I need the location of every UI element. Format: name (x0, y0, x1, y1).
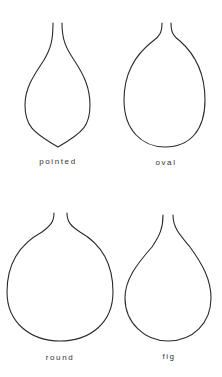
fig-shape-outline (125, 215, 211, 341)
fig-label: fig (134, 352, 204, 361)
oval-label: oval (131, 158, 201, 167)
round-shape-outline (7, 213, 113, 341)
shapes-diagram (0, 0, 222, 377)
oval-shape-outline (124, 23, 205, 147)
pointed-label: pointed (23, 157, 93, 166)
pointed-shape-outline (25, 23, 90, 147)
round-label: round (25, 353, 95, 362)
